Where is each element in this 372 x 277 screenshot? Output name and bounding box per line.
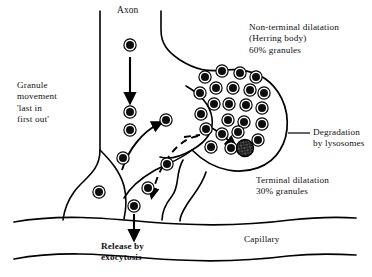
granule-herring-body [222, 114, 234, 126]
granule-axon [124, 106, 136, 118]
granule-herring-body [223, 98, 235, 110]
granule-herring-body [199, 71, 211, 83]
granule-herring-body [208, 98, 220, 110]
label-degradation-by-lysosomes: Degradation by lysosomes [313, 127, 365, 150]
granule-terminal [93, 186, 105, 198]
granule-layer [93, 39, 270, 212]
granule-herring-body [200, 123, 212, 135]
capillary-upper-wall [14, 217, 356, 224]
granule-terminal [128, 200, 140, 212]
granule-axon [124, 39, 136, 51]
label-non-terminal-dilatation: Non-terminal dilatation (Herring body) 6… [249, 22, 339, 56]
label-granule-movement: Granule movement 'last in first out' [17, 80, 57, 126]
granule-terminal [142, 182, 154, 194]
granule-herring-body [256, 118, 268, 130]
return-dashed-arrow [152, 136, 198, 196]
figure-canvas: Axon Granule movement 'last in first out… [0, 0, 372, 277]
granule-herring-body [252, 134, 264, 146]
granule-herring-body [256, 102, 268, 114]
capillary-lower-wall [14, 254, 356, 261]
label-release-by-exocytosis: Release by exocytosis [101, 241, 144, 264]
granule-herring-body [250, 71, 262, 83]
granule-herring-body [216, 128, 228, 140]
granule-herring-body [232, 126, 244, 138]
lysosome-granule [237, 140, 254, 157]
granule-terminal [117, 152, 129, 164]
granule-herring-body [244, 84, 256, 96]
granule-herring-body [216, 65, 228, 77]
granule-herring-body [210, 82, 222, 94]
label-terminal-dilatation: Terminal dilatation 30% granules [256, 175, 329, 198]
granule-herring-body [195, 108, 207, 120]
label-axon: Axon [117, 5, 138, 16]
granule-axon [124, 124, 136, 136]
granule-herring-body [227, 82, 239, 94]
degraded-granule [237, 140, 254, 157]
granule-terminal [161, 158, 173, 170]
granule-herring-body [234, 67, 246, 79]
granule-herring-body [240, 99, 252, 111]
capillary-walls [14, 217, 356, 260]
label-capillary: Capillary [244, 234, 280, 245]
granule-terminal [160, 114, 172, 126]
granule-herring-body [258, 87, 270, 99]
granule-herring-body [205, 141, 217, 153]
granule-herring-body [225, 142, 237, 154]
granule-herring-body [194, 87, 206, 99]
